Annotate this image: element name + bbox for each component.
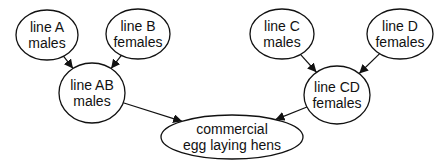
node-label-line: line B: [120, 18, 155, 34]
node-lineB: line Bfemales: [106, 9, 170, 59]
node-label-line: males: [73, 93, 110, 109]
breeding-diagram: line Amalesline Bfemalesline ABmalesline…: [0, 0, 443, 164]
node-label-line: line AB: [70, 77, 114, 93]
node-lineA: line Amales: [16, 10, 78, 60]
node-lineD: line Dfemales: [367, 9, 433, 59]
edge-lineD-to-lineCD: [359, 54, 379, 74]
node-label-line: line CD: [314, 79, 360, 95]
edge-lineC-to-lineCD: [300, 54, 316, 72]
node-lineC: line Cmales: [250, 9, 314, 59]
node-lineAB: line ABmales: [59, 63, 125, 123]
edge-lineAB-to-commercial: [123, 103, 182, 122]
node-label-line: females: [375, 34, 424, 50]
node-label-line: females: [312, 95, 361, 111]
node-label-line: females: [113, 34, 162, 50]
edge-lineB-to-lineAB: [111, 55, 121, 68]
node-label-line: line C: [264, 18, 300, 34]
nodes: line Amalesline Bfemalesline ABmalesline…: [16, 9, 433, 159]
node-label-line: line A: [30, 19, 65, 35]
node-label-line: males: [263, 34, 300, 50]
node-lineCD: line CDfemales: [304, 66, 370, 124]
node-label-line: commercial: [196, 121, 268, 137]
node-label-line: line D: [382, 18, 418, 34]
edge-lineA-to-lineAB: [63, 56, 73, 68]
node-commercial: commercialegg laying hens: [161, 115, 303, 159]
edge-lineCD-to-commercial: [275, 107, 306, 120]
node-label-line: males: [28, 35, 65, 51]
node-label-line: egg laying hens: [183, 137, 281, 153]
